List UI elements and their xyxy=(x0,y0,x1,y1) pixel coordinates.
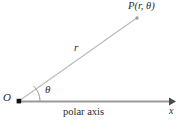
point-dot xyxy=(135,16,138,19)
point-label: P(r, θ) xyxy=(128,1,155,12)
radius-label: r xyxy=(74,42,78,53)
origin-label: O xyxy=(3,92,11,103)
polar-axis-label: polar axis xyxy=(63,107,104,118)
radius-ray xyxy=(19,19,136,102)
origin-dot xyxy=(17,99,22,104)
x-axis-label: x xyxy=(169,106,173,116)
polar-coordinate-diagram: O P(r, θ) r θ polar axis x xyxy=(0,0,183,129)
angle-label: θ xyxy=(45,84,50,95)
